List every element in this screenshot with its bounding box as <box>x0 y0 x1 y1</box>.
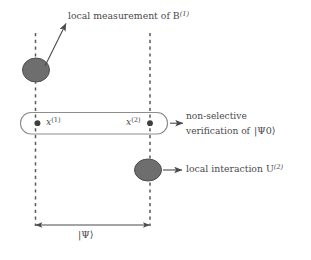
measurement-blob <box>23 58 50 82</box>
measurement-leader-arrow <box>45 24 66 67</box>
label-local-measurement-superscript: (1) <box>180 10 189 18</box>
label-local-measurement: local measurement of B(1) <box>68 11 189 21</box>
interaction-blob <box>135 159 162 181</box>
event-point-x1-dot <box>35 120 41 126</box>
label-point-x1: x(1) <box>46 117 61 127</box>
label-point-x2: x(2) <box>126 117 141 127</box>
verification-region-box <box>21 113 168 135</box>
label-local-interaction-superscript: (2) <box>274 163 283 171</box>
label-verification-line2: verification of <box>186 127 250 137</box>
label-verification-state: |Ψ0⟩ <box>254 126 276 136</box>
figure-canvas: local measurement of B(1) non-selective … <box>0 0 311 260</box>
label-point-x1-superscript: (1) <box>51 116 60 124</box>
event-point-x2-dot <box>147 120 153 126</box>
label-global-state: |Ψ⟩ <box>78 230 93 240</box>
label-local-interaction: local interaction U(2) <box>186 164 283 174</box>
label-verification-line1: non-selective <box>186 112 247 122</box>
label-point-x2-superscript: (2) <box>131 116 140 124</box>
